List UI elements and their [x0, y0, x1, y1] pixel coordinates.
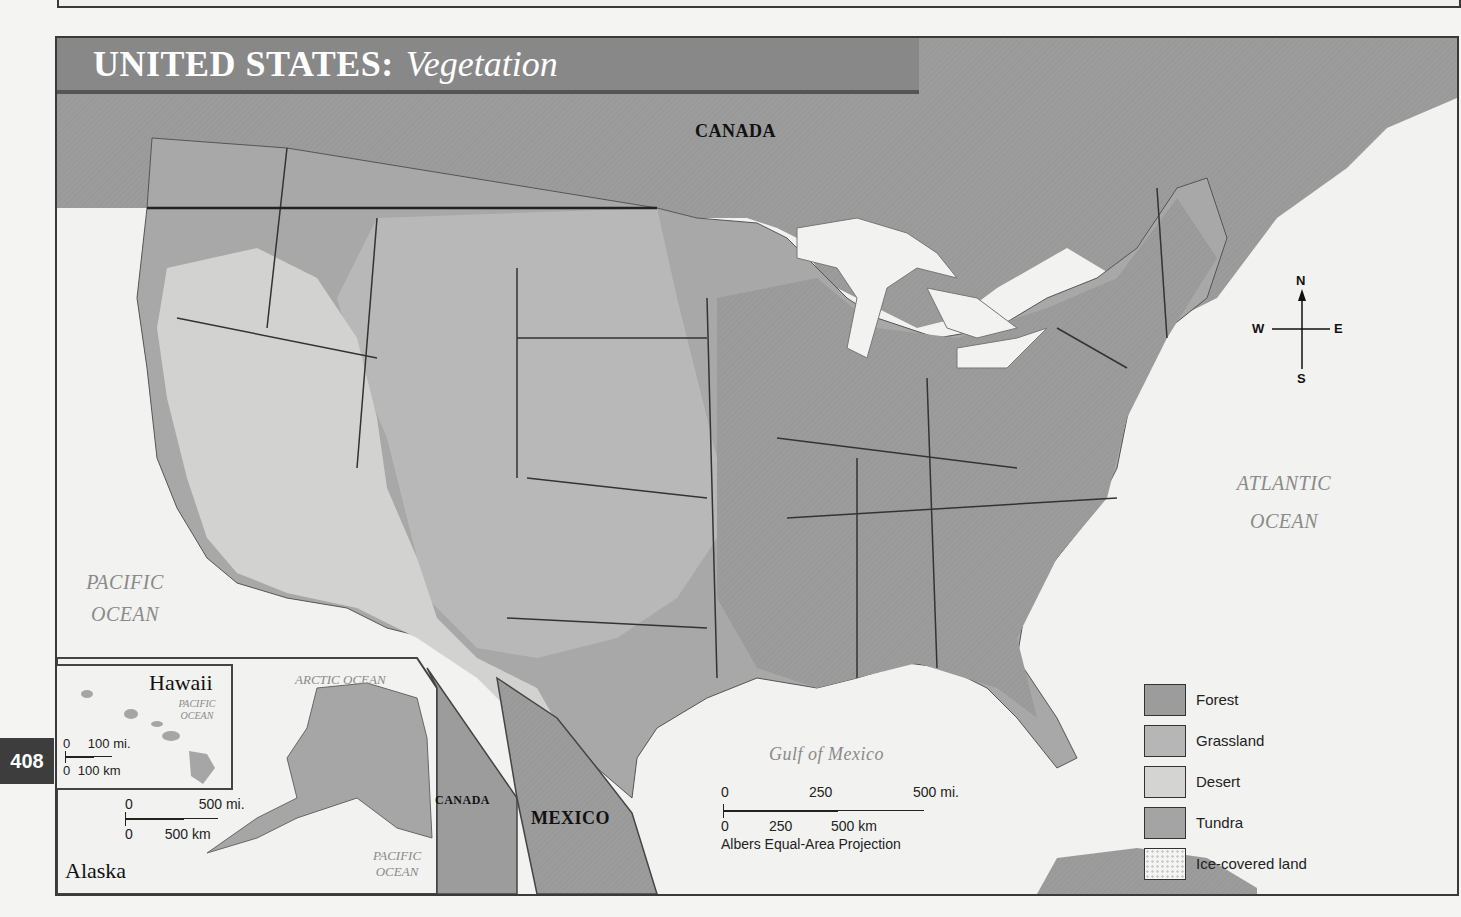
atlantic-line2: OCEAN: [1219, 502, 1349, 540]
alaska-pacific-line2: OCEAN: [357, 864, 437, 880]
label-gulf-of-mexico: Gulf of Mexico: [769, 738, 884, 770]
legend-label-desert: Desert: [1196, 773, 1240, 790]
scale-mi-1: 250: [809, 784, 832, 800]
alaska-pacific-line1: PACIFIC: [357, 848, 437, 864]
label-alaska-pacific: PACIFIC OCEAN: [357, 848, 437, 880]
compass-arrow-icon: [1252, 273, 1342, 393]
title-sub: Vegetation: [406, 43, 558, 85]
hawaii-scale-km-1: 100 km: [78, 763, 121, 778]
hawaii-inset: Hawaii PACIFIC OCEAN 0 100 mi. 0 100 km: [57, 664, 233, 790]
scale-km-1: 250: [769, 818, 792, 834]
legend-item-grassland: Grassland: [1144, 720, 1307, 761]
legend-item-ice: Ice-covered land: [1144, 843, 1307, 884]
vegetation-map: UNITED STATES: Vegetation CANADA MEXICO …: [55, 36, 1459, 896]
pacific-line1: PACIFIC: [75, 566, 175, 598]
legend-label-tundra: Tundra: [1196, 814, 1243, 831]
legend-label-grassland: Grassland: [1196, 732, 1264, 749]
label-mexico: MEXICO: [531, 808, 610, 829]
tundra-swatch: [1144, 807, 1186, 839]
atlantic-line1: ATLANTIC: [1219, 464, 1349, 502]
page-number-tab: 408: [0, 738, 54, 784]
legend-item-desert: Desert: [1144, 761, 1307, 802]
hawaii-scale-mi-1: 100 mi.: [88, 736, 131, 751]
alaska-scale-mi-1: 500 mi.: [199, 796, 245, 812]
label-canada-inset: CANADA: [435, 793, 490, 808]
forest-swatch: [1144, 684, 1186, 716]
label-pacific-ocean: PACIFIC OCEAN: [75, 566, 175, 630]
compass-rose: N W E S: [1252, 273, 1342, 393]
grassland-swatch: [1144, 725, 1186, 757]
main-scale-bar: 0 250 500 mi. 0 250 500 km Albers Equal-…: [721, 784, 981, 852]
label-canada: CANADA: [695, 121, 776, 142]
alaska-title: Alaska: [65, 858, 126, 884]
legend-item-tundra: Tundra: [1144, 802, 1307, 843]
legend-label-forest: Forest: [1196, 691, 1239, 708]
alaska-scale: 0 500 mi. 0 500 km: [125, 796, 245, 842]
alaska-scale-mi-0: 0: [125, 796, 133, 812]
legend-item-forest: Forest: [1144, 679, 1307, 720]
title-main: UNITED STATES:: [93, 43, 394, 85]
alaska-scale-km-1: 500 km: [165, 826, 211, 842]
map-title-bar: UNITED STATES: Vegetation: [57, 38, 919, 94]
legend: Forest Grassland Desert Tundra Ice-cover…: [1144, 679, 1307, 884]
pacific-line2: OCEAN: [75, 598, 175, 630]
scale-mi-0: 0: [721, 784, 729, 800]
alaska-scale-km-0: 0: [125, 826, 133, 842]
scale-km-0: 0: [721, 818, 729, 834]
legend-label-ice: Ice-covered land: [1196, 855, 1307, 872]
page-number: 408: [10, 750, 43, 773]
hawaii-scale-mi-0: 0: [63, 736, 70, 751]
hawaii-scale: 0 100 mi. 0 100 km: [63, 736, 131, 778]
ice-swatch: [1144, 848, 1186, 880]
label-atlantic-ocean: ATLANTIC OCEAN: [1219, 464, 1349, 540]
projection-label: Albers Equal-Area Projection: [721, 836, 981, 852]
label-arctic-ocean: ARCTIC OCEAN: [295, 672, 386, 688]
hawaii-scale-km-0: 0: [63, 763, 70, 778]
previous-map-frame: [57, 0, 1461, 8]
desert-swatch: [1144, 766, 1186, 798]
scale-km-2: 500 km: [831, 818, 877, 834]
scale-mi-2: 500 mi.: [913, 784, 959, 800]
